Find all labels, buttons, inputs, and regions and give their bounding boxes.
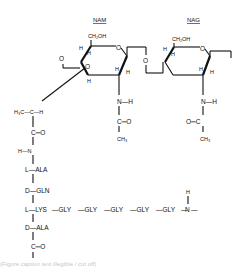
nag-h1: H [163, 46, 167, 52]
nam-o3: O [85, 63, 90, 70]
nag-co: O═C [186, 118, 201, 125]
bridge-gly-2: —GLY [78, 206, 98, 213]
peptide-stem: L—ALA D—GLN L—LYS D—ALA C═O [25, 155, 50, 258]
nam-h5: H [126, 69, 130, 75]
bridge-gly-4: —GLY [130, 206, 150, 213]
glycosidic-o: O [143, 57, 148, 64]
nam-ch3: CH₃ [117, 136, 127, 142]
bridge-end-dash: — [191, 206, 198, 213]
terminal-co: C═O [31, 243, 45, 250]
peptidoglycan-diagram: NAM NAG CH₂OH O H H O H H H O O CH₂OH [0, 0, 245, 267]
lactyl-label: H₃C—C—H [14, 109, 43, 115]
nam-ch2oh: CH₂OH [88, 33, 106, 39]
stem-3: L—LYS [25, 206, 48, 213]
nag-ring: CH₂OH O H H H H [163, 36, 231, 75]
nam-label: NAM [93, 17, 106, 23]
nam-h2: H [87, 50, 91, 56]
lactyl-group: H₃C—C—H C═O H—N [14, 68, 85, 154]
nam-co: C═O [117, 118, 131, 125]
nam-h3: H [87, 78, 91, 84]
lactyl-hn: H—N [18, 148, 31, 154]
bridge-h: H [186, 189, 190, 195]
nag-nh: N—H [201, 98, 217, 105]
nam-ring-oxygen: O [116, 44, 121, 51]
nam-nh: N—H [117, 98, 133, 105]
pentaglycine-bridge: —GLY —GLY —GLY —GLY —GLY — H N — [52, 189, 198, 213]
stem-1: L—ALA [25, 166, 48, 173]
nag-n-acetyl: N—H O═C CH₃ [186, 75, 217, 142]
lactyl-co: C═O [31, 129, 45, 136]
stem-2: D—GLN [25, 187, 50, 194]
nag-ch2oh: CH₂OH [172, 36, 190, 42]
bridge-gly-3: —GLY [104, 206, 124, 213]
figure-caption: (Figure caption text illegible / cut off… [0, 261, 96, 267]
nag-label: NAG [187, 17, 200, 23]
nam-h1: H [79, 45, 83, 51]
nag-ring-oxygen: O [200, 45, 205, 52]
nam-h4: H [115, 66, 119, 72]
nam-left-o: O [59, 55, 64, 62]
nag-h2: H [171, 51, 175, 57]
nag-h4: H [210, 69, 214, 75]
nag-ch3: CH₃ [200, 136, 210, 142]
nag-h3: H [199, 66, 203, 72]
nam-n-acetyl: N—H C═O CH₃ [117, 75, 133, 142]
bridge-gly-5: —GLY [156, 206, 176, 213]
bridge-n: N [185, 206, 190, 213]
stem-4: D—ALA [25, 224, 49, 231]
bridge-gly-1: —GLY [52, 206, 72, 213]
